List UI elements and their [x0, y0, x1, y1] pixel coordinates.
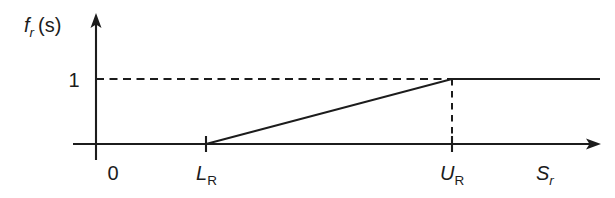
x-axis-label-main: S [536, 162, 550, 184]
lower-bound-label: LR [196, 162, 217, 188]
y-axis-label-sub: r [30, 25, 35, 40]
lower-bound-label-sub: R [207, 173, 217, 188]
upper-bound-label-sub: R [454, 173, 464, 188]
origin-label: 0 [107, 162, 118, 184]
x-axis-label: Sr [536, 162, 554, 188]
x-axis-label-sub: r [549, 173, 554, 188]
y-axis-label: fr(s) [24, 14, 61, 40]
ramp-function-plot: fr(s) 1 0 LR UR Sr [0, 0, 615, 198]
upper-bound-label-main: U [440, 162, 455, 184]
ramp-function-curve [206, 79, 600, 144]
y-axis-label-arg: (s) [38, 14, 61, 36]
upper-bound-label: UR [440, 162, 464, 188]
figure-container: fr(s) 1 0 LR UR Sr [0, 0, 615, 198]
lower-bound-label-main: L [196, 162, 207, 184]
y-tick-label-one: 1 [68, 69, 79, 91]
